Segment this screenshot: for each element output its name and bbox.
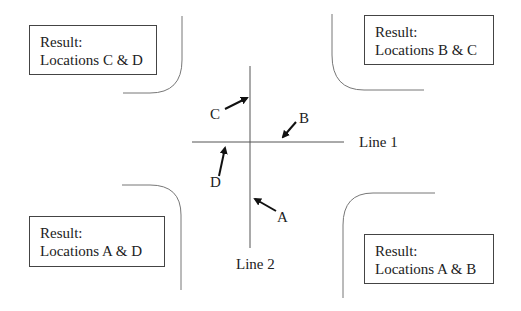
location-label-b: B [299,110,309,126]
result-box-bottom-left: Result: Locations A & D [29,216,165,267]
line-1-label: Line 1 [359,134,398,150]
arrow-b [283,122,296,137]
location-label-c: C [210,106,220,122]
result-body: Locations A & B [375,260,493,278]
location-label-d: D [210,174,221,190]
location-label-a: A [277,209,288,225]
result-body: Locations B & C [375,41,493,59]
result-title: Result: [40,33,156,51]
arrow-d [219,148,225,176]
intersection-diagram: Result: Locations C & D Result: Location… [0,0,521,311]
line-2-label: Line 2 [236,256,275,272]
arrow-c [225,98,247,109]
result-body: Locations A & D [40,242,164,260]
arrow-a [255,199,276,211]
result-box-bottom-right: Result: Locations A & B [364,234,494,284]
result-title: Result: [40,224,164,242]
result-box-top-left: Result: Locations C & D [29,25,157,75]
result-title: Result: [375,23,493,41]
result-box-top-right: Result: Locations B & C [364,15,494,65]
result-body: Locations C & D [40,51,156,69]
result-title: Result: [375,242,493,260]
